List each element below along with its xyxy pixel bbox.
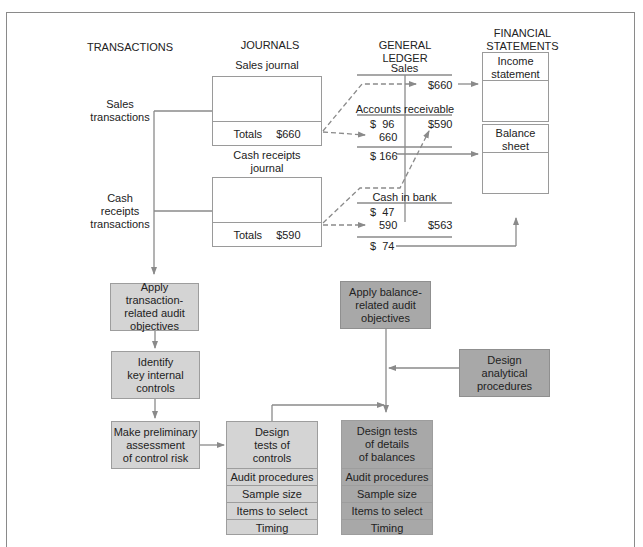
label-cash-receipts-transactions: Cash receipts transactions [85,192,155,231]
label-sales-transactions: Sales transactions [85,98,155,124]
cash-receipts-journal-title: Cash receipts journal [212,149,322,175]
box-line: analytical [477,367,532,380]
preliminary-assessment-box: Make preliminary assessment of control r… [111,421,200,469]
cash-receipts-journal-box: Totals $590 [212,177,322,247]
design-tests-of-details-box: Design tests of details of balances Audi… [341,420,433,535]
totals-label: Totals [233,128,262,140]
box-line: Design [253,426,292,439]
sales-journal-totals: Totals $660 [213,121,321,145]
row-items-to-select: Items to select [342,502,432,519]
row-sample-size: Sample size [342,485,432,502]
ledger-ar-debit-beginning: $ 96 [370,118,394,130]
title-line: Cash receipts [212,149,322,162]
header-financial-statements: FINANCIAL STATEMENTS [475,27,570,53]
design-tests-of-details-title: Design tests of details of balances [342,421,432,468]
header-financial-line1: FINANCIAL [475,27,570,40]
design-tests-of-controls-box: Design tests of controls Audit procedure… [226,421,318,535]
box-line: of balances [357,451,418,464]
identify-internal-controls-box: Identify key internal controls [111,351,200,399]
row-timing: Timing [342,519,432,536]
box-line: Design tests [357,425,418,438]
title-line: journal [212,162,322,175]
box-line: Identify [127,356,183,369]
box-line: Design [477,354,532,367]
ledger-cash-title: Cash in bank [357,191,452,204]
ledger-cash-debit-receipts: 590 [379,219,397,231]
label-line: transactions [85,111,155,124]
ledger-ar-credit: $590 [428,118,452,130]
header-transactions: TRANSACTIONS [70,41,190,54]
header-journals: JOURNALS [225,39,315,52]
row-items-to-select: Items to select [227,502,317,519]
cash-journal-totals: Totals $590 [213,222,321,246]
box-line: procedures [477,380,532,393]
apply-balance-objectives-box: Apply balance- related audit objectives [340,281,431,329]
ledger-cash-debit-beginning: $ 47 [370,206,394,218]
box-line: objectives [349,312,422,325]
balance-sheet-title: Balance sheet [483,125,548,153]
title-line: Income [483,55,548,68]
sales-journal-box: Totals $660 [212,76,322,146]
box-line: of details [357,438,418,451]
ledger-sales-title: Sales [357,62,452,75]
balance-sheet-box: Balance sheet [482,124,549,194]
label-line: receipts [85,205,155,218]
row-sample-size: Sample size [227,485,317,502]
ledger-ar-title: Accounts receivable [355,103,455,116]
box-line: assessment [114,439,198,452]
box-line: controls [253,452,292,465]
income-statement-box: Income statement [482,52,549,122]
row-timing: Timing [227,519,317,536]
title-line: statement [483,68,548,81]
label-line: Cash [85,192,155,205]
box-line: Apply transaction- [111,281,198,307]
title-line: sheet [483,140,548,153]
label-line: transactions [85,218,155,231]
box-line: key internal [127,369,183,382]
box-line: Make preliminary [114,426,198,439]
title-line: Balance [483,127,548,140]
row-audit-procedures: Audit procedures [342,468,432,485]
row-audit-procedures: Audit procedures [227,468,317,485]
box-line: Apply balance- [349,286,422,299]
design-analytical-procedures-box: Design analytical procedures [459,349,550,397]
sales-journal-title: Sales journal [212,59,322,72]
totals-value: $660 [276,128,300,140]
income-statement-title: Income statement [483,53,548,81]
label-line: Sales [85,98,155,111]
box-line: controls [127,382,183,395]
apply-transaction-objectives-box: Apply transaction- related audit objecti… [110,283,199,331]
ledger-sales-credit: $660 [428,79,452,91]
box-line: related audit [111,307,198,320]
ledger-cash-credit: $563 [428,219,452,231]
box-line: tests of [253,439,292,452]
design-tests-of-controls-title: Design tests of controls [227,422,317,468]
totals-label: Totals [233,229,262,241]
totals-value: $590 [276,229,300,241]
ledger-ar-balance: $ 166 [370,150,398,162]
box-line: of control risk [114,452,198,465]
ledger-cash-balance: $ 74 [370,240,394,252]
box-line: related audit [349,299,422,312]
box-line: objectives [111,320,198,333]
ledger-ar-debit-sales: 660 [379,131,397,143]
